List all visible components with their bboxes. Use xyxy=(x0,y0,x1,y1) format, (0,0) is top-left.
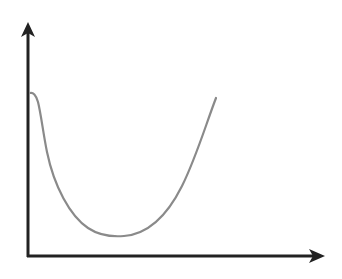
u-shaped-curve xyxy=(30,93,216,237)
curve-diagram xyxy=(0,0,342,279)
diagram-canvas xyxy=(0,0,342,279)
